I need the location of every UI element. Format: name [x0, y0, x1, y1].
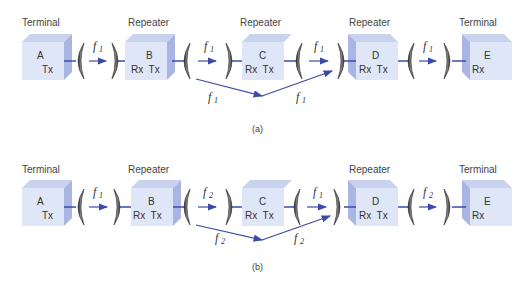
freq-label: f2 [215, 231, 225, 246]
dish-icon [294, 189, 300, 225]
freq-label: f1 [93, 39, 103, 54]
svg-text:f: f [423, 39, 428, 53]
dish-icon [78, 43, 84, 79]
freq-label: f2 [294, 231, 304, 246]
svg-text:1: 1 [99, 191, 103, 200]
role-label: Repeater [240, 17, 282, 28]
freq-label: f2 [203, 185, 213, 200]
port-label: Rx [472, 210, 484, 221]
freq-label: f1 [423, 39, 433, 54]
radio-relay-diagram: Terminal Repeater Repeater Repeater Term… [0, 0, 518, 296]
role-label: Repeater [128, 17, 170, 28]
svg-text:f: f [208, 90, 213, 104]
port-label: Rx [472, 64, 484, 75]
dish-icon [112, 43, 118, 79]
freq-label: f1 [296, 90, 306, 105]
svg-text:1: 1 [210, 45, 214, 54]
role-label: Terminal [459, 17, 497, 28]
port-label: Tx [42, 210, 53, 221]
svg-text:2: 2 [209, 191, 213, 200]
port-label: Tx [42, 64, 53, 75]
svg-text:1: 1 [214, 96, 218, 105]
freq-label: f1 [314, 39, 324, 54]
role-label: Repeater [349, 17, 391, 28]
role-label: Terminal [22, 17, 60, 28]
svg-text:1: 1 [302, 96, 306, 105]
node-id: C [259, 196, 266, 207]
port-label: Rx Tx [245, 64, 274, 75]
dish-icon [444, 43, 450, 79]
port-label: Rx Tx [245, 210, 274, 221]
freq-label: f1 [204, 39, 214, 54]
svg-text:f: f [296, 90, 301, 104]
svg-text:f: f [313, 185, 318, 199]
svg-text:1: 1 [320, 45, 324, 54]
svg-text:1: 1 [429, 45, 433, 54]
node-id: B [148, 196, 155, 207]
node-id: E [484, 50, 491, 61]
svg-text:2: 2 [221, 237, 225, 246]
port-label: Rx Tx [133, 210, 162, 221]
dish-icon [184, 43, 190, 79]
svg-text:f: f [294, 231, 299, 245]
dish-icon [114, 189, 120, 225]
freq-label: f1 [93, 185, 103, 200]
port-label: Rx Tx [131, 64, 160, 75]
svg-text:f: f [423, 185, 428, 199]
svg-text:1: 1 [319, 191, 323, 200]
dish-icon [226, 43, 232, 79]
dish-icon [226, 189, 232, 225]
node-id: A [37, 196, 44, 207]
node-id: A [37, 50, 44, 61]
svg-text:f: f [93, 39, 98, 53]
dish-icon [338, 43, 344, 79]
dish-icon [78, 189, 84, 225]
port-label: Rx Tx [359, 210, 388, 221]
port-label: Rx Tx [359, 64, 388, 75]
node-id: C [259, 50, 266, 61]
svg-text:f: f [204, 39, 209, 53]
role-label: Terminal [22, 164, 60, 175]
dish-icon [444, 189, 450, 225]
svg-text:f: f [203, 185, 208, 199]
dish-icon [184, 189, 190, 225]
dish-icon [408, 43, 414, 79]
node-id: D [372, 196, 379, 207]
svg-text:f: f [314, 39, 319, 53]
role-label: Repeater [349, 164, 391, 175]
svg-text:f: f [215, 231, 220, 245]
caption-b: (b) [252, 262, 263, 272]
role-label: Repeater [128, 164, 170, 175]
dish-icon [334, 189, 340, 225]
svg-text:f: f [93, 185, 98, 199]
node-id: D [372, 50, 379, 61]
svg-text:1: 1 [99, 45, 103, 54]
freq-label: f1 [208, 90, 218, 105]
svg-text:2: 2 [429, 191, 433, 200]
dish-icon [296, 43, 302, 79]
role-label: Terminal [459, 164, 497, 175]
freq-label: f2 [423, 185, 433, 200]
dish-icon [408, 189, 414, 225]
node-id: E [484, 196, 491, 207]
caption-a: (a) [252, 124, 263, 134]
freq-label: f1 [313, 185, 323, 200]
svg-text:2: 2 [300, 237, 304, 246]
node-id: B [146, 50, 153, 61]
